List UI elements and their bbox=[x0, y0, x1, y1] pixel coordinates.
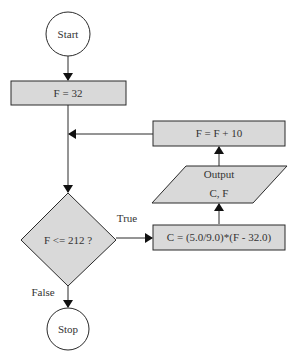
true-label: True bbox=[117, 212, 137, 224]
output-label-line1: Output bbox=[204, 168, 235, 180]
start-label: Start bbox=[58, 28, 79, 40]
compute-label: C = (5.0/9.0)*(F - 32.0) bbox=[167, 231, 272, 244]
init-node: F = 32 bbox=[11, 81, 126, 105]
increment-node: F = F + 10 bbox=[153, 121, 285, 146]
start-node: Start bbox=[46, 12, 90, 56]
init-label: F = 32 bbox=[54, 87, 83, 99]
stop-node: Stop bbox=[47, 308, 89, 350]
false-label: False bbox=[31, 286, 54, 298]
decision-label: F <= 212 ? bbox=[44, 234, 92, 246]
increment-label: F = F + 10 bbox=[196, 127, 243, 139]
output-label-line2: C, F bbox=[210, 187, 229, 199]
output-node: Output C, F bbox=[152, 166, 287, 203]
compute-node: C = (5.0/9.0)*(F - 32.0) bbox=[153, 225, 285, 250]
flowchart-canvas: Start F = 32 F = F + 10 Output C, F C = … bbox=[0, 0, 298, 364]
stop-label: Stop bbox=[58, 323, 79, 335]
decision-node: F <= 212 ? bbox=[21, 193, 116, 286]
